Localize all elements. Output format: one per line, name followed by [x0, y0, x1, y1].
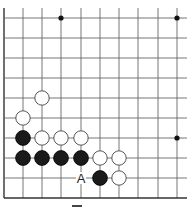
point-labels: A	[76, 171, 86, 186]
caption-mark	[72, 205, 82, 207]
caption-mark	[72, 205, 82, 207]
black-stone	[74, 151, 89, 166]
white-stone	[93, 151, 107, 165]
white-stone	[112, 171, 126, 185]
black-stone	[35, 151, 50, 166]
star-point-icon	[58, 15, 63, 20]
board-grid	[4, 8, 187, 198]
white-stone	[54, 131, 68, 145]
black-stone	[16, 131, 31, 146]
black-stone	[54, 151, 69, 166]
black-stone	[93, 171, 108, 186]
white-stone	[74, 131, 88, 145]
white-stone	[35, 91, 49, 105]
white-stone	[35, 131, 49, 145]
star-point-icon	[174, 135, 179, 140]
point-label: A	[77, 171, 86, 186]
white-stone	[112, 151, 126, 165]
black-stone	[16, 151, 31, 166]
star-point-icon	[174, 15, 179, 20]
go-board-diagram: A	[0, 0, 191, 209]
white-stone	[16, 111, 30, 125]
